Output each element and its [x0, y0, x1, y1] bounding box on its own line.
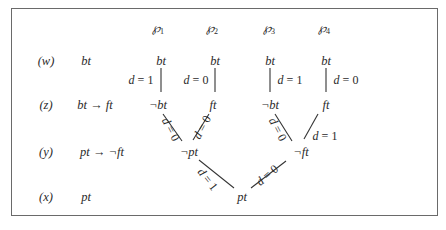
node-y-left: ¬pt: [180, 146, 198, 159]
tree-edges: [0, 0, 446, 230]
node-z4: ft: [323, 99, 330, 112]
edge-label-z4-yr: d = 1: [313, 129, 338, 144]
edge-label-w4-z4: d = 0: [334, 73, 359, 88]
node-x-root: pt: [237, 191, 247, 204]
node-w1: bt: [156, 55, 166, 68]
edge-label-w1-z1: d = 1: [129, 73, 154, 88]
node-w3: bt: [265, 55, 275, 68]
node-y-right: ¬ft: [293, 146, 308, 159]
node-w2: bt: [210, 55, 220, 68]
node-z1: ¬bt: [149, 99, 167, 112]
edge-label-w3-z3: d = 1: [278, 73, 303, 88]
node-w4: bt: [321, 55, 331, 68]
node-z2: ft: [210, 99, 217, 112]
node-z3: ¬bt: [261, 99, 279, 112]
edge-label-w2-z2: d = 0: [184, 73, 209, 88]
